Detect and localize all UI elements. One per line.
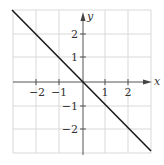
y-tick-label: 1 bbox=[71, 51, 78, 64]
y-axis-arrow-icon bbox=[81, 12, 86, 21]
x-axis-label: x bbox=[154, 75, 161, 88]
y-axis bbox=[80, 16, 86, 155]
line-chart: −2 −1 1 2 2 1 −1 −2 x y bbox=[0, 0, 164, 165]
x-tick-label: 1 bbox=[102, 86, 109, 99]
y-tick-label: −1 bbox=[62, 100, 78, 113]
y-tick-label: 2 bbox=[71, 28, 78, 41]
x-tick-label: 2 bbox=[125, 86, 132, 99]
y-axis-label: y bbox=[86, 10, 94, 23]
y-tick-label: −2 bbox=[62, 123, 78, 136]
x-tick-label: −1 bbox=[51, 86, 67, 99]
series-line-y-equals-neg-x bbox=[12, 10, 151, 151]
x-tick-label: −2 bbox=[29, 86, 45, 99]
